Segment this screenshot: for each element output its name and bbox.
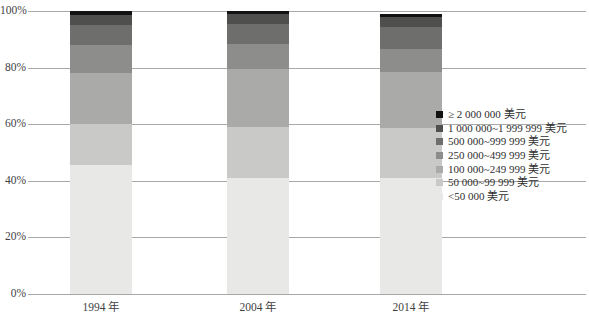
- legend-item[interactable]: 250 000~499 999 美元: [436, 149, 588, 163]
- bar-segment: [380, 128, 442, 178]
- legend-item[interactable]: 1 000 000~1 999 999 美元: [436, 122, 588, 136]
- bar-segment: [380, 27, 442, 50]
- bar-segment: [380, 178, 442, 294]
- y-axis-tick-mark: [28, 181, 34, 182]
- y-axis-tick-mark: [28, 294, 34, 295]
- bar-segment: [227, 69, 289, 127]
- bar-segment: [70, 15, 132, 25]
- legend-item-label: ≥ 2 000 000 美元: [448, 109, 526, 120]
- bar-segment: [227, 127, 289, 178]
- y-axis-tick-label: 100%: [0, 5, 26, 17]
- y-axis-tick-label: 0%: [0, 288, 26, 300]
- bar-1994: [70, 11, 132, 294]
- bar-segment: [380, 17, 442, 27]
- legend-item-label: 50 000~99 999 美元: [448, 177, 539, 188]
- gridline: [30, 294, 586, 295]
- legend-item-label: 250 000~499 999 美元: [448, 150, 550, 161]
- bar-segment: [227, 24, 289, 44]
- x-axis-tick-label: 2004 年: [198, 302, 318, 314]
- y-axis-tick-label: 40%: [0, 175, 26, 187]
- bar-segment: [70, 25, 132, 45]
- legend: ≥ 2 000 000 美元1 000 000~1 999 999 美元500 …: [436, 108, 588, 203]
- legend-item[interactable]: <50 000 美元: [436, 190, 588, 204]
- bar-segment: [380, 49, 442, 72]
- x-axis-tick-label: 1994 年: [41, 302, 161, 314]
- legend-item-label: 500 000~999 999 美元: [448, 136, 550, 147]
- legend-item[interactable]: ≥ 2 000 000 美元: [436, 108, 588, 122]
- bar-2004: [227, 11, 289, 294]
- legend-item-label: 1 000 000~1 999 999 美元: [448, 123, 567, 134]
- y-axis-tick-mark: [28, 11, 34, 12]
- y-axis-tick-label: 80%: [0, 62, 26, 74]
- bar-segment: [70, 45, 132, 73]
- legend-item[interactable]: 500 000~999 999 美元: [436, 135, 588, 149]
- bar-segment: [70, 73, 132, 124]
- bar-2014: [380, 11, 442, 294]
- legend-item[interactable]: 100 000~249 999 美元: [436, 162, 588, 176]
- bar-segment: [70, 165, 132, 294]
- legend-swatch-icon: [436, 179, 443, 186]
- y-axis-tick-label: 20%: [0, 232, 26, 244]
- bar-segment: [70, 124, 132, 165]
- bar-segment: [227, 44, 289, 69]
- y-axis-tick-mark: [28, 68, 34, 69]
- chart-container: 100%80%60%40%20%0% 1994 年2004 年2014 年 ≥ …: [0, 0, 589, 323]
- legend-swatch-icon: [436, 152, 443, 159]
- legend-swatch-icon: [436, 193, 443, 200]
- x-axis-tick-label: 2014 年: [351, 302, 471, 314]
- bar-segment: [380, 72, 442, 129]
- legend-item-label: <50 000 美元: [448, 191, 509, 202]
- legend-item-label: 100 000~249 999 美元: [448, 164, 550, 175]
- legend-swatch-icon: [436, 138, 443, 145]
- legend-swatch-icon: [436, 111, 443, 118]
- legend-item[interactable]: 50 000~99 999 美元: [436, 176, 588, 190]
- bar-segment: [227, 14, 289, 24]
- y-axis-tick-mark: [28, 124, 34, 125]
- y-axis-tick-mark: [28, 237, 34, 238]
- legend-swatch-icon: [436, 166, 443, 173]
- bar-segment: [227, 178, 289, 294]
- y-axis-tick-label: 60%: [0, 118, 26, 130]
- legend-swatch-icon: [436, 125, 443, 132]
